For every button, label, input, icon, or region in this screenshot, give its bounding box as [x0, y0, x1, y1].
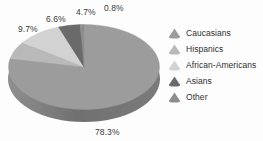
slice-label-asians: 4.7%	[76, 7, 96, 17]
chart-legend: Caucasians Hispanics African-Americans	[168, 25, 263, 105]
slice-label-caucasians: 78.3%	[95, 127, 120, 137]
cone-icon	[168, 60, 181, 71]
cone-icon	[168, 44, 181, 55]
pie-graphic	[8, 24, 160, 128]
pie-top-face	[8, 24, 160, 110]
pie-chart-figure: 9.7% 6.6% 4.7% 0.8% 78.3% Caucasians	[0, 0, 263, 141]
cone-icon	[168, 28, 181, 39]
legend-item-other[interactable]: Other	[168, 89, 263, 105]
legend-label: African-Americans	[186, 60, 256, 70]
cone-icon	[168, 92, 181, 103]
legend-label: Asians	[186, 76, 212, 86]
legend-item-african-americans[interactable]: African-Americans	[168, 57, 263, 73]
legend-label: Caucasians	[186, 28, 231, 38]
legend-item-asians[interactable]: Asians	[168, 73, 263, 89]
slice-label-other: 0.8%	[104, 3, 124, 13]
cone-icon	[168, 76, 181, 87]
slice-label-hispanics: 6.6%	[46, 14, 66, 24]
pie-slices	[8, 24, 160, 110]
legend-item-caucasians[interactable]: Caucasians	[168, 25, 263, 41]
legend-label: Hispanics	[186, 44, 223, 54]
legend-label: Other	[186, 92, 208, 102]
legend-item-hispanics[interactable]: Hispanics	[168, 41, 263, 57]
